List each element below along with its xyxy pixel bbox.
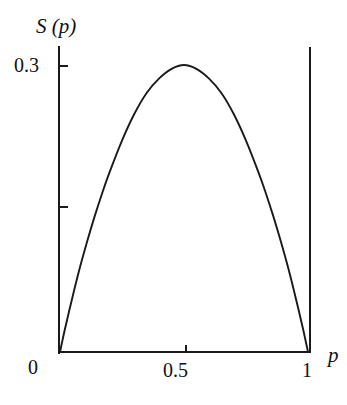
x-axis-tick-label-0: 0 [28, 357, 38, 377]
y-axis-title: S (p) [36, 16, 76, 37]
curve-layer [0, 0, 347, 405]
x-axis-title: p [328, 345, 339, 366]
x-axis-tick-label-1: 1 [302, 360, 312, 380]
y-axis-tick-label-0.3: 0.3 [14, 55, 39, 75]
entropy-curve-figure: S (p) 0.3 0 0.5 1 p [0, 0, 347, 405]
series-line-S-of-p [60, 65, 308, 352]
x-axis-tick-label-0.5: 0.5 [163, 360, 188, 380]
